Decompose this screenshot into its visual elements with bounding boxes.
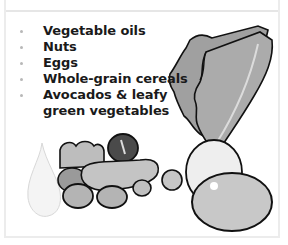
hazelnut-icon <box>63 184 93 208</box>
list-item-label: green vegetables <box>43 103 169 119</box>
list-item-label: Eggs <box>43 55 78 71</box>
list-item-label: Nuts <box>43 39 77 55</box>
hazelnut-icon <box>97 186 127 208</box>
oil-drop-icon <box>28 143 61 216</box>
bullet-icon <box>20 46 23 49</box>
pea-icon <box>133 180 151 196</box>
pea-icon <box>162 170 182 190</box>
list-item-label: Whole-grain cereals <box>43 71 188 87</box>
bullet-icon <box>20 94 23 97</box>
list-item-label: Vegetable oils <box>43 23 146 39</box>
bullet-icon <box>20 30 23 33</box>
list-item-label: Avocados & leafy <box>43 87 167 103</box>
bullet-icon <box>20 62 23 65</box>
egg-gray-icon <box>192 173 272 231</box>
bullet-icon <box>20 78 23 81</box>
